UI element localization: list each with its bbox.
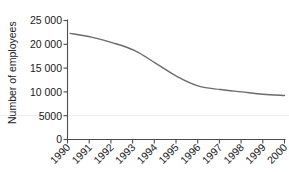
y-tick-label-20000: 20 000 (30, 38, 62, 50)
x-tick-label-1994: 1994 (134, 141, 159, 166)
x-tick-label-2000: 2000 (264, 141, 289, 166)
x-tick-label-1991: 1991 (69, 141, 94, 166)
line-chart: Number of employees 25 000 20 000 15 000… (0, 0, 289, 172)
x-tick-label-1995: 1995 (156, 141, 181, 166)
x-tick-label-1993: 1993 (113, 141, 138, 166)
x-tick-label-1990: 1990 (47, 141, 72, 166)
x-tick-label-1998: 1998 (221, 141, 246, 166)
y-tick-label-10000: 10 000 (30, 86, 62, 98)
y-axis-title: Number of employees (6, 21, 18, 124)
y-tick-label-25000: 25 000 (30, 14, 62, 26)
y-tick-marks (64, 21, 68, 140)
x-tick-label-1997: 1997 (199, 141, 224, 166)
axis-spines (68, 20, 286, 140)
x-tick-marks (68, 140, 285, 144)
x-tick-label-1992: 1992 (91, 141, 116, 166)
y-tick-label-15000: 15 000 (30, 62, 62, 74)
data-series-line (70, 33, 285, 95)
x-tick-label-1999: 1999 (243, 141, 268, 166)
y-tick-label-5000: 5000 (39, 110, 63, 122)
chart-container: Number of employees 25 000 20 000 15 000… (0, 0, 289, 172)
x-tick-label-1996: 1996 (178, 141, 203, 166)
